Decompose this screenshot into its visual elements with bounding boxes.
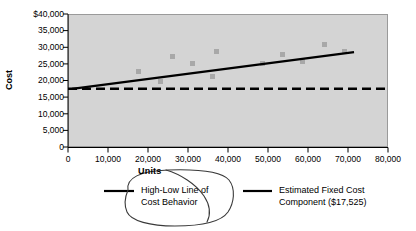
- x-tick-label: 10,000: [87, 155, 129, 164]
- x-axis-ticks: [68, 148, 388, 153]
- x-tick-label: 60,000: [287, 155, 329, 164]
- x-tick-label: 70,000: [327, 155, 369, 164]
- legend-entry-fixed-cost-label: Estimated Fixed Cost Component ($17,525): [279, 185, 367, 208]
- x-tick-label: 50,000: [247, 155, 289, 164]
- chart-figure: Cost $40,000 35,000 30,000 25,000 20,000…: [0, 0, 416, 231]
- x-tick-label: 0: [56, 155, 80, 164]
- legend-label-line-1: High-Low Line of: [141, 185, 209, 197]
- legend-label-line-2: Component ($17,525): [279, 197, 367, 209]
- x-tick-label: 80,000: [367, 155, 409, 164]
- legend-entry-high-low-label: High-Low Line of Cost Behavior: [141, 185, 209, 208]
- high-low-cost-behavior-line: [72, 52, 354, 89]
- x-tick-label: 30,000: [167, 155, 209, 164]
- legend-label-line-1: Estimated Fixed Cost: [279, 185, 367, 197]
- y-axis-ticks: [63, 14, 68, 147]
- legend-label-line-2: Cost Behavior: [141, 197, 209, 209]
- x-axis-title: Units: [138, 166, 162, 176]
- x-tick-label: 20,000: [127, 155, 169, 164]
- axis-spines: [68, 14, 388, 148]
- x-tick-label: 40,000: [207, 155, 249, 164]
